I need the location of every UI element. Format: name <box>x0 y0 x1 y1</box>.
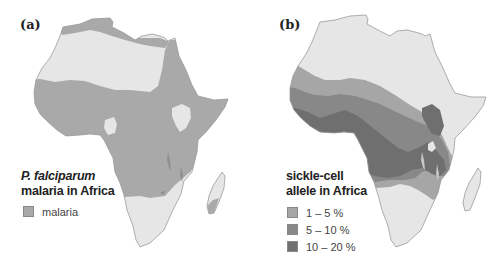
legend-title-line2: allele in Africa <box>286 184 367 199</box>
legend-swatch-10-20-percent <box>287 241 298 252</box>
legend-swatch-1-5-percent <box>287 207 298 218</box>
legend-malaria: P. falciparum malaria in Africa malaria <box>21 169 114 220</box>
legend-title: sickle-cell allele in Africa <box>286 169 367 199</box>
panel-label-a: (a) <box>20 17 41 32</box>
legend-item-label: 1 – 5 % <box>306 207 343 219</box>
legend-item-malaria: malaria <box>23 203 114 220</box>
madagascar <box>463 168 481 211</box>
panel-label-b: (b) <box>279 17 300 32</box>
legend-title-line2: malaria in Africa <box>21 184 114 199</box>
panel-b-sickle-cell-map: (b) sickle-cell allele in Africa 1 – 5 %… <box>250 0 501 275</box>
legend-title: P. falciparum malaria in Africa <box>21 169 114 199</box>
africa-malaria-map <box>0 0 251 275</box>
legend-sickle-cell: sickle-cell allele in Africa 1 – 5 % 5 –… <box>286 169 367 255</box>
legend-item-label: 10 – 20 % <box>306 241 356 253</box>
legend-item-10-20-percent: 10 – 20 % <box>287 238 367 255</box>
legend-swatch-5-10-percent <box>287 224 298 235</box>
legend-item-label: malaria <box>42 206 78 218</box>
legend-title-line1: sickle-cell <box>286 169 367 184</box>
panel-a-malaria-map: (a) P. falciparum malaria in Africa mala… <box>0 0 251 275</box>
legend-swatch-malaria <box>23 206 34 217</box>
legend-item-5-10-percent: 5 – 10 % <box>287 221 367 238</box>
legend-item-1-5-percent: 1 – 5 % <box>287 204 367 221</box>
legend-item-label: 5 – 10 % <box>306 224 349 236</box>
legend-title-line1: P. falciparum <box>21 169 114 184</box>
